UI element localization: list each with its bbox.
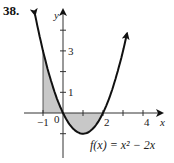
svg-text:x: x: [159, 116, 165, 128]
svg-text:4: 4: [144, 116, 150, 128]
svg-text:0: 0: [54, 113, 60, 125]
svg-text:1: 1: [68, 86, 74, 98]
function-label: f(x) = x² − 2x: [90, 138, 155, 153]
svg-text:−1: −1: [37, 116, 49, 128]
svg-text:2: 2: [104, 116, 110, 128]
svg-text:3: 3: [68, 45, 74, 57]
svg-text:y: y: [53, 9, 59, 21]
